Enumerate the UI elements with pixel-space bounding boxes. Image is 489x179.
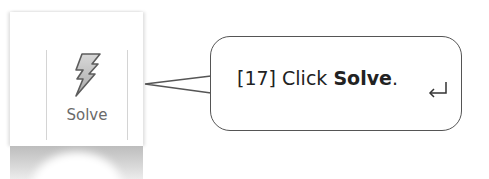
solve-button[interactable]: Solve [50, 48, 124, 138]
ribbon-shadow [10, 146, 143, 179]
callout-target: Solve [333, 67, 392, 89]
ribbon-group: Solve [10, 12, 143, 146]
ribbon-separator [127, 50, 128, 140]
lightning-bolt-icon [70, 52, 104, 98]
callout-bubble: [17] Click Solve. [210, 36, 462, 131]
callout-text: [17] Click Solve. [237, 67, 398, 89]
callout-suffix: . [392, 67, 398, 89]
return-arrow-icon [426, 79, 450, 99]
solve-label: Solve [67, 106, 108, 124]
step-number: [17] [237, 67, 276, 89]
tutorial-stage: Solve [17] Click Solve. [0, 0, 489, 179]
ribbon-separator [46, 50, 47, 140]
callout-instruction: Click [282, 67, 327, 89]
